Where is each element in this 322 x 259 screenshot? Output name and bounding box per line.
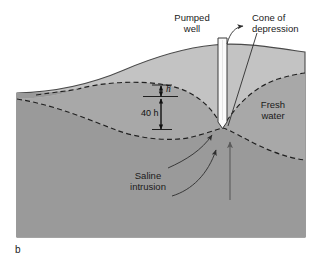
saline-intrusion-label-line2: intrusion — [130, 181, 166, 192]
cone-of-depression-label-line1: Cone of — [252, 12, 286, 23]
saline-intrusion-label-line1: Saline — [135, 170, 161, 181]
figure-saline-intrusion: Pumped well Cone of depression Fresh wat… — [0, 0, 322, 259]
fresh-water-label-line2: water — [260, 110, 284, 121]
cone-of-depression-label-line2: depression — [252, 23, 298, 34]
fresh-water-label-line1: Fresh — [261, 99, 285, 110]
pumped-well-casing — [218, 38, 227, 129]
pumped-well-label-line1: Pumped — [174, 12, 209, 23]
depth-dimension-label: 40 h — [141, 108, 159, 118]
pumping-discharge-arrow — [227, 26, 243, 44]
head-symbol-label: h — [166, 84, 171, 94]
cross-section-svg: Pumped well Cone of depression Fresh wat… — [0, 0, 322, 259]
panel-label: b — [15, 244, 21, 255]
pumped-well-label-line2: well — [183, 23, 200, 34]
